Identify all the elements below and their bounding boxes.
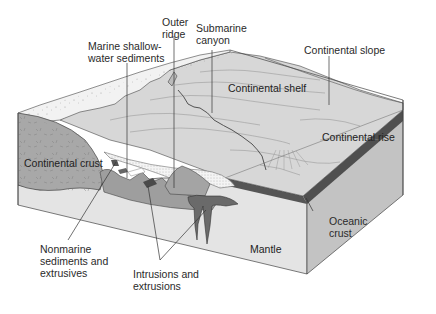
nonmarine-sediment-wedge-2 [118,168,128,174]
label-intrusions-extrusions: Intrusions and extrusions [133,268,199,292]
label-continental-rise: Continental rise [322,131,395,143]
label-outer-ridge: Outer ridge [162,16,188,40]
label-continental-crust: Continental crust [24,157,103,169]
label-marine-shallow-water-sediments: Marine shallow- water sediments [88,40,164,64]
label-submarine-canyon: Submarine canyon [196,22,247,46]
label-continental-slope: Continental slope [304,44,385,56]
label-mantle: Mantle [250,243,282,255]
label-continental-shelf: Continental shelf [228,82,306,94]
label-nonmarine-sediments: Nonmarine sediments and extrusives [40,243,108,279]
label-oceanic-crust: Oceanic crust [329,215,368,239]
